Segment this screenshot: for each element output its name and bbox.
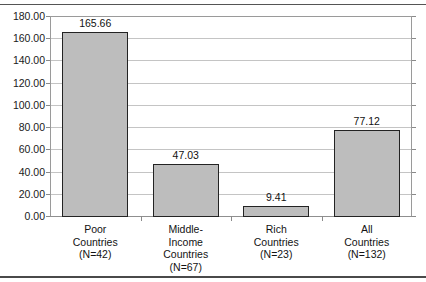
y-axis-tick-label: 0.00 bbox=[0, 211, 45, 222]
category-tick bbox=[231, 216, 232, 221]
bar-value-label: 9.41 bbox=[246, 192, 306, 203]
y-axis-tick-label: 100.00 bbox=[0, 100, 45, 111]
y-axis-tick-label: 140.00 bbox=[0, 55, 45, 66]
y-axis-tick-label: 20.00 bbox=[0, 189, 45, 200]
plot-area: 165.6647.039.4177.12 bbox=[50, 16, 412, 217]
category-tick bbox=[141, 216, 142, 221]
bar bbox=[243, 206, 309, 217]
y-axis-tick-label: 40.00 bbox=[0, 167, 45, 178]
bar-chart: 0.0020.0040.0060.0080.00100.00120.00140.… bbox=[0, 0, 426, 282]
y-axis-line-left bbox=[50, 16, 51, 217]
category-tick bbox=[322, 216, 323, 221]
bar bbox=[334, 130, 400, 217]
y-axis-tick-label: 180.00 bbox=[0, 11, 45, 22]
x-axis-label-line: (N=67) bbox=[131, 261, 241, 274]
y-axis-line-right bbox=[411, 16, 412, 217]
bar-value-label: 77.12 bbox=[337, 116, 397, 127]
x-axis-label-line: (N=132) bbox=[312, 248, 422, 261]
page-rule-top bbox=[0, 4, 426, 5]
bar-value-label: 165.66 bbox=[65, 18, 125, 29]
y-axis-tick-label: 60.00 bbox=[0, 144, 45, 155]
y-axis-tick-label: 160.00 bbox=[0, 33, 45, 44]
x-axis-label-line: Countries bbox=[312, 236, 422, 249]
x-axis-label-line: All bbox=[312, 223, 422, 236]
y-axis-tick-label: 120.00 bbox=[0, 78, 45, 89]
x-axis-category-label: AllCountries(N=132) bbox=[312, 223, 422, 261]
bar bbox=[153, 164, 219, 217]
y-axis-tick-label: 80.00 bbox=[0, 122, 45, 133]
bar-value-label: 47.03 bbox=[156, 150, 216, 161]
bar bbox=[62, 32, 128, 217]
page-rule-bottom bbox=[0, 276, 426, 278]
